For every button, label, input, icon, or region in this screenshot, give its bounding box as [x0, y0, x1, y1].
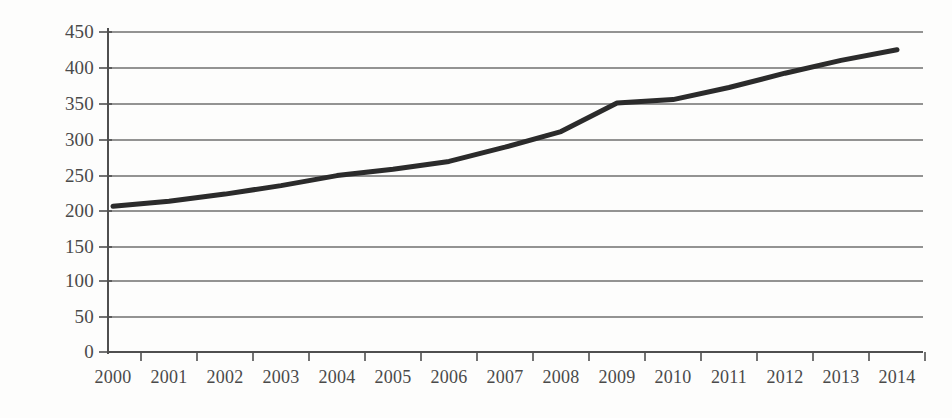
y-tick-50: 50: [22, 307, 94, 327]
y-tick-0: 0: [22, 342, 94, 362]
line-chart: 450 400 350 300 250 200 150 100 50 0 200…: [0, 0, 952, 418]
x-tick-label-2013: 2013: [811, 368, 871, 386]
y-tick-350: 350: [22, 94, 94, 114]
x-tick-label-2011: 2011: [699, 368, 759, 386]
y-tick-150: 150: [22, 237, 94, 257]
y-tick-label: 350: [65, 94, 94, 113]
x-tick-label-2001: 2001: [139, 368, 199, 386]
x-tick-label-2002: 2002: [195, 368, 255, 386]
chart-plot-area: [0, 0, 952, 418]
y-axis-ticks: [99, 32, 112, 352]
y-tick-label: 400: [65, 58, 94, 77]
x-tick-label-2014: 2014: [867, 368, 927, 386]
y-tick-200: 200: [22, 201, 94, 221]
data-series-line: [113, 50, 897, 206]
y-tick-300: 300: [22, 130, 94, 150]
x-tick-label-2009: 2009: [587, 368, 647, 386]
x-tick-label-2010: 2010: [643, 368, 703, 386]
x-tick-label-2005: 2005: [363, 368, 423, 386]
y-tick-label: 100: [65, 271, 94, 290]
y-tick-label: 50: [75, 307, 94, 326]
x-tick-label-2006: 2006: [419, 368, 479, 386]
gridlines-group: [108, 32, 923, 317]
x-tick-label-2000: 2000: [83, 368, 143, 386]
y-tick-400: 400: [22, 58, 94, 78]
y-tick-label: 200: [65, 201, 94, 220]
x-tick-label-2012: 2012: [755, 368, 815, 386]
x-tick-label-2007: 2007: [475, 368, 535, 386]
x-tick-label-2008: 2008: [531, 368, 591, 386]
x-tick-label-2004: 2004: [307, 368, 367, 386]
y-tick-label: 450: [65, 22, 94, 41]
y-tick-100: 100: [22, 271, 94, 291]
y-tick-label: 0: [84, 342, 94, 361]
y-tick-250: 250: [22, 166, 94, 186]
x-axis-ticks: [141, 352, 925, 361]
y-tick-label: 300: [65, 130, 94, 149]
x-tick-label-2003: 2003: [251, 368, 311, 386]
y-tick-label: 250: [65, 166, 94, 185]
y-tick-450: 450: [22, 22, 94, 42]
y-tick-label: 150: [65, 237, 94, 256]
